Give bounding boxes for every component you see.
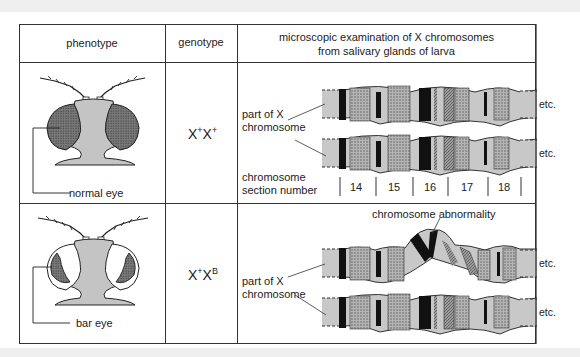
fly-head-normal-icon xyxy=(33,76,145,193)
chromosome-label-line1: part of X xyxy=(242,275,284,288)
section-number-17: 17 xyxy=(461,181,473,194)
chromosome-normal-3 xyxy=(322,294,546,334)
genotype-allele: X xyxy=(188,126,197,142)
section-number-14: 14 xyxy=(350,181,362,194)
section-number-15: 15 xyxy=(388,181,400,194)
genotype-allele: X xyxy=(203,126,212,142)
genotype-superscript: + xyxy=(212,125,217,135)
abnormality-label: chromosome abnormality xyxy=(372,208,496,221)
genotype-allele: X xyxy=(203,267,212,283)
etc-label: etc. xyxy=(539,257,556,270)
section-label-line1: chromosome xyxy=(242,171,306,184)
fly-head-bar-eye-icon xyxy=(33,216,148,323)
section-label-line2: section number xyxy=(242,184,317,197)
etc-label: etc. xyxy=(539,98,556,111)
etc-label: etc. xyxy=(539,147,556,160)
chromosome-label-line2: chromosome xyxy=(242,121,306,134)
etc-label: etc. xyxy=(539,306,556,319)
phenotype-label-normal: normal eye xyxy=(69,187,123,200)
chromosome-normal-2 xyxy=(322,135,546,175)
phenotype-label-bar: bar eye xyxy=(76,317,113,330)
genotype-allele: X xyxy=(188,267,197,283)
genotype-bar: X+XB xyxy=(188,266,218,283)
chromosome-abnormal xyxy=(322,229,546,283)
section-number-18: 18 xyxy=(498,181,510,194)
genotype-superscript: B xyxy=(212,266,218,276)
section-number-16: 16 xyxy=(424,181,436,194)
chromosome-normal-1 xyxy=(322,86,546,126)
chromosome-label-line2: chromosome xyxy=(242,288,306,301)
genotype-normal: X+X+ xyxy=(188,125,217,142)
chromosome-label-line1: part of X xyxy=(242,108,284,121)
